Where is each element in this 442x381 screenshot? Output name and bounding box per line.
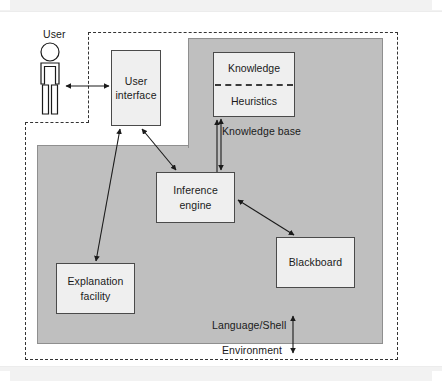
page-corner-top-left bbox=[0, 0, 10, 10]
node-blackboard-label: Blackboard bbox=[286, 255, 346, 269]
node-explanation-facility[interactable]: Explanation facility bbox=[56, 263, 135, 314]
node-explanation-facility-line1: Explanation bbox=[68, 275, 124, 287]
node-heuristics-label: Heuristics bbox=[231, 95, 277, 107]
caption-user: User bbox=[43, 28, 66, 40]
node-inference-engine-line1: Inference bbox=[173, 184, 218, 196]
page-scan-band-top bbox=[0, 0, 442, 12]
node-user-interface[interactable]: User interface bbox=[111, 50, 161, 126]
page-corner-top-right bbox=[432, 0, 442, 10]
page-corner-bottom-left bbox=[0, 371, 10, 381]
node-user-interface-line1: User bbox=[125, 75, 148, 87]
node-knowledge-base[interactable]: Knowledge Heuristics bbox=[213, 52, 295, 117]
node-explanation-facility-label: Explanation facility bbox=[65, 274, 127, 302]
node-blackboard-line1: Blackboard bbox=[289, 256, 343, 268]
node-inference-engine-line2: engine bbox=[179, 199, 211, 211]
node-blackboard[interactable]: Blackboard bbox=[276, 237, 355, 288]
node-heuristics-half: Heuristics bbox=[214, 86, 294, 117]
caption-environment: Environment bbox=[222, 344, 282, 356]
node-inference-engine[interactable]: Inference engine bbox=[156, 172, 235, 223]
environment-boundary-step bbox=[25, 122, 89, 123]
caption-knowledge-base: Knowledge base bbox=[222, 125, 301, 137]
node-user-interface-line2: interface bbox=[115, 89, 156, 101]
diagram-canvas: User interface Knowledge Heuristics Infe… bbox=[0, 0, 442, 381]
node-inference-engine-label: Inference engine bbox=[170, 183, 221, 211]
node-knowledge-label: Knowledge bbox=[228, 62, 280, 74]
user-person-icon bbox=[41, 43, 59, 114]
page-scan-band-bottom bbox=[0, 366, 442, 381]
node-knowledge-half: Knowledge bbox=[214, 53, 294, 84]
node-explanation-facility-line2: facility bbox=[81, 290, 111, 302]
caption-language-shell: Language/Shell bbox=[212, 319, 286, 331]
node-user-interface-label: User interface bbox=[112, 74, 159, 102]
page-corner-bottom-right bbox=[432, 371, 442, 381]
